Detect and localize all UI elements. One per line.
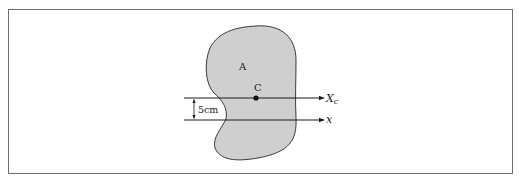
centroid-point bbox=[253, 95, 258, 100]
region-label: A bbox=[238, 61, 247, 72]
parallel-axis-diagram: A C 5cm Xc x bbox=[0, 0, 519, 183]
distance-label: 5cm bbox=[198, 104, 218, 115]
parallel-axis-label: x bbox=[326, 113, 333, 126]
region-a-shape bbox=[206, 26, 296, 160]
centroid-label: C bbox=[254, 82, 262, 93]
centroidal-axis-label: Xc bbox=[325, 92, 339, 106]
centroidal-axis-subscript: c bbox=[334, 97, 339, 106]
